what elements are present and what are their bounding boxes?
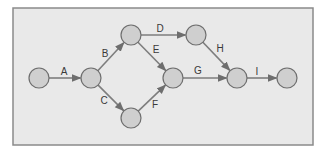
- edge-label-d: D: [156, 23, 163, 34]
- node-n3: [121, 25, 141, 45]
- node-n8: [277, 68, 297, 88]
- node-n4: [121, 108, 141, 128]
- edge-label-c: C: [100, 95, 107, 106]
- node-n6: [186, 25, 206, 45]
- network-diagram: ABCDEFGHI: [0, 0, 327, 152]
- edge-label-e: E: [153, 44, 160, 55]
- node-n5: [163, 68, 183, 88]
- node-n1: [29, 68, 49, 88]
- edge-label-f: F: [152, 99, 158, 110]
- edge-label-b: B: [102, 48, 109, 59]
- edge-label-h: H: [216, 43, 223, 54]
- edge-label-i: I: [256, 66, 259, 77]
- node-n7: [227, 68, 247, 88]
- edge-label-g: G: [194, 65, 202, 76]
- node-n2: [81, 68, 101, 88]
- edge-label-a: A: [61, 66, 68, 77]
